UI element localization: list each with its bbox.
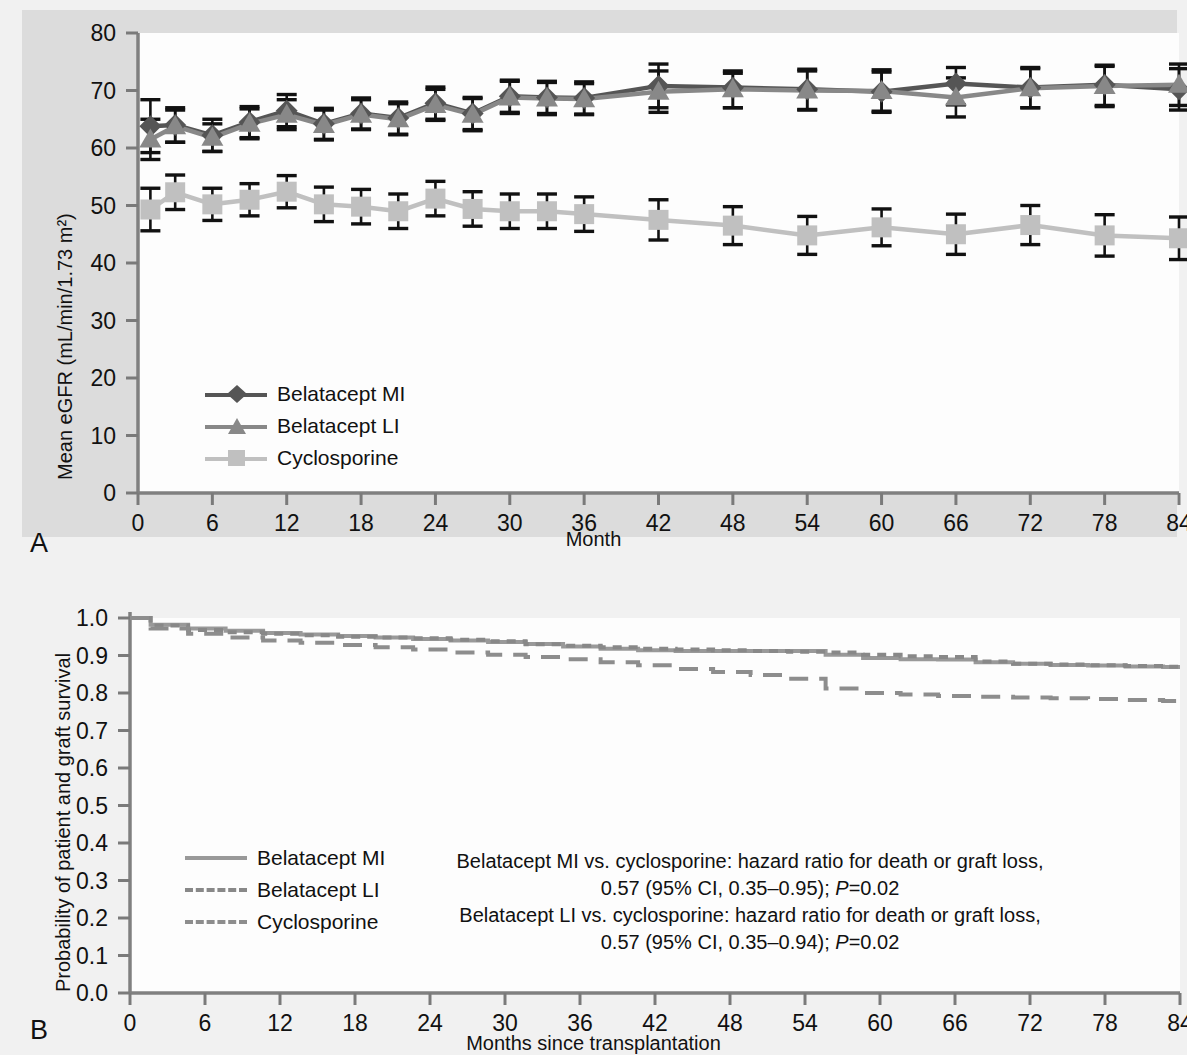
annotation-line-3: Belatacept LI vs. cyclosporine: hazard r… (440, 902, 1060, 929)
svg-text:0.9: 0.9 (76, 643, 108, 669)
panel-b-annotation: Belatacept MI vs. cyclosporine: hazard r… (440, 848, 1060, 956)
svg-text:0.6: 0.6 (76, 755, 108, 781)
legend-line-solid-icon (185, 848, 247, 868)
panel-b-legend: Belatacept MI Belatacept LI Cyclosporine (185, 842, 385, 938)
legend-marker-square-icon (205, 448, 267, 468)
panel-b: Probability of patient and graft surviva… (0, 580, 1187, 1051)
svg-text:30: 30 (90, 308, 116, 334)
legend-item-cyclosporine: Cyclosporine (205, 442, 405, 474)
legend-label: Belatacept LI (257, 878, 380, 902)
legend-item-belatacept-mi: Belatacept MI (205, 378, 405, 410)
legend-item-belatacept-li: Belatacept LI (185, 874, 385, 906)
legend-item-belatacept-li: Belatacept LI (205, 410, 405, 442)
svg-text:0.8: 0.8 (76, 680, 108, 706)
svg-text:0.4: 0.4 (76, 830, 108, 856)
svg-text:10: 10 (90, 423, 116, 449)
legend-marker-diamond-icon (205, 384, 267, 404)
panel-b-plot: 0.00.10.20.30.40.50.60.70.80.91.00612182… (0, 580, 1187, 1051)
panel-a: Mean eGFR (mL/min/1.73 m²) 0102030405060… (0, 0, 1187, 580)
annotation-line-1: Belatacept MI vs. cyclosporine: hazard r… (440, 848, 1060, 875)
svg-text:0: 0 (103, 480, 116, 506)
legend-label: Belatacept MI (257, 846, 385, 870)
svg-text:0.1: 0.1 (76, 943, 108, 969)
legend-line-dotted-icon (185, 880, 247, 900)
annotation-line-2: 0.57 (95% CI, 0.35–0.95); P=0.02 (440, 875, 1060, 902)
legend-item-cyclosporine: Cyclosporine (185, 906, 385, 938)
svg-text:0.5: 0.5 (76, 793, 108, 819)
svg-text:60: 60 (90, 135, 116, 161)
legend-label: Belatacept MI (277, 382, 405, 406)
svg-text:40: 40 (90, 250, 116, 276)
svg-text:50: 50 (90, 193, 116, 219)
legend-label: Cyclosporine (257, 910, 378, 934)
panel-a-plot: 0102030405060708006121824303642485460667… (0, 0, 1187, 580)
panel-a-letter: A (30, 528, 48, 559)
svg-text:0.3: 0.3 (76, 868, 108, 894)
panel-a-legend: Belatacept MI Belatacept LI (205, 378, 405, 474)
panel-a-x-axis-label: Month (0, 528, 1187, 551)
svg-text:20: 20 (90, 365, 116, 391)
svg-text:0.7: 0.7 (76, 718, 108, 744)
panel-b-letter: B (30, 1015, 48, 1046)
legend-marker-triangle-icon (205, 416, 267, 436)
panel-b-x-axis-label: Months since transplantation (0, 1032, 1187, 1055)
svg-text:0.2: 0.2 (76, 905, 108, 931)
svg-text:70: 70 (90, 78, 116, 104)
legend-label: Cyclosporine (277, 446, 398, 470)
legend-line-dashed-icon (185, 912, 247, 932)
legend-item-belatacept-mi: Belatacept MI (185, 842, 385, 874)
legend-label: Belatacept LI (277, 414, 400, 438)
svg-text:1.0: 1.0 (76, 605, 108, 631)
svg-text:0.0: 0.0 (76, 980, 108, 1006)
svg-text:80: 80 (90, 20, 116, 46)
annotation-line-4: 0.57 (95% CI, 0.35–0.94); P=0.02 (440, 929, 1060, 956)
